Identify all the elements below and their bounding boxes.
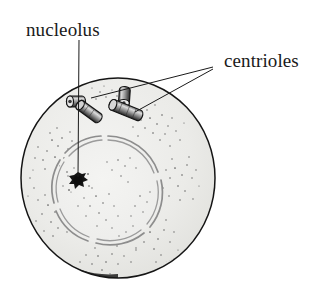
cell-illustration-svg (0, 0, 330, 294)
cell-body (21, 40, 252, 286)
label-nucleolus: nucleolus (26, 20, 100, 39)
cell-diagram-figure: nucleolus centrioles (0, 0, 330, 294)
label-centrioles: centrioles (224, 51, 299, 70)
